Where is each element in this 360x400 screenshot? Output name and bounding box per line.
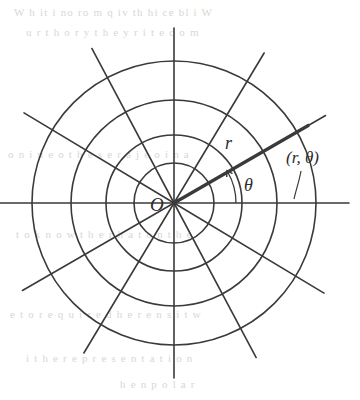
theta-label: θ <box>244 175 253 196</box>
spoke-298deg <box>174 203 256 358</box>
spoke-210deg <box>22 203 174 291</box>
spoke-329deg <box>174 203 324 293</box>
polar-diagram-svg <box>0 0 360 400</box>
spoke-149deg <box>24 113 174 203</box>
point-label-leader-line <box>294 171 301 199</box>
radius-label: r <box>225 133 232 154</box>
point-coordinates-label: (r, θ) <box>286 148 319 168</box>
theta-angle-arc <box>228 172 236 203</box>
origin-label: O <box>150 194 164 216</box>
figure-canvas: W h it i no ro m q iv th hi ce bl i Wu r… <box>0 0 360 400</box>
spoke-239deg <box>84 203 174 353</box>
spoke-118deg <box>92 48 174 203</box>
